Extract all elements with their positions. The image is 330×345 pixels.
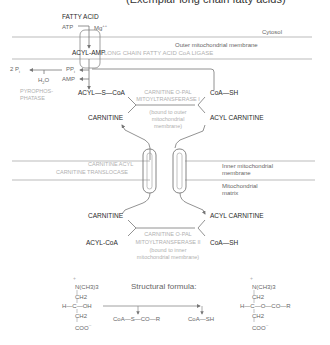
acyl-coa-label: ACYL-CoA — [86, 240, 118, 247]
outer-membrane-label: Outer mitochondrial membrane — [175, 42, 258, 48]
pyrophosphatase-label-2: PHATASE — [20, 96, 45, 102]
carnitine-row-5: COO− — [75, 323, 92, 331]
ppi-label: PPi — [66, 66, 75, 74]
carnitine-row-3: H—C—OH — [62, 303, 92, 309]
ligase-label: LONG CHAIN FATTY ACID CoA LIGASE — [104, 50, 213, 56]
transferase-i-location-2: mitochondrial — [132, 117, 204, 123]
translocase-left — [143, 149, 156, 193]
translocase-label-1: CARNITINE ACYL — [88, 162, 133, 168]
transferase-i-location-1: (bound to outer — [132, 110, 204, 116]
acyl-s-coa-label: ACYL—S—CoA — [78, 90, 125, 97]
acyl-carnitine-row-2: CH2 — [252, 294, 264, 300]
matrix-label-1: Mitochondrial — [222, 183, 258, 189]
reactant-coa-s-co-r: CoA—S—CO—R — [113, 316, 160, 322]
transferase-ii-location-2: mitochondrial membrane) — [124, 255, 212, 261]
mg-label: Mg++ — [94, 24, 107, 31]
acyl-carnitine-row-3: H—C—O—CO—R — [240, 303, 291, 309]
fatty-acid-label: FATTY ACID — [62, 14, 99, 21]
transferase-i-location-3: membrane) — [132, 124, 204, 130]
structural-formula-label: Structural formula: — [131, 283, 196, 291]
acyl-carnitine-inner-label: ACYL CARNITINE — [210, 213, 264, 220]
carnitine-row-2: CH2 — [75, 294, 87, 300]
coa-sh-outer-label: CoA—SH — [210, 90, 238, 97]
carnitine-row-1: N(CH3)3 — [75, 284, 99, 290]
product-coa-sh: CoA—SH — [188, 316, 214, 322]
carnitine-row-4: CH2 — [75, 313, 87, 319]
carnitine-inner-label: CARNITINE — [88, 213, 123, 220]
acyl-amp-label: ACYL-AMP — [72, 50, 105, 57]
transferase-ii-label-1: CARNITINE O-PAL — [132, 232, 204, 238]
atp-label: ATP — [62, 24, 73, 30]
inner-membrane-label-2: membrane — [222, 170, 251, 176]
coa-sh-inner-label: CoA—SH — [210, 240, 238, 247]
carnitine-outer-label: CARNITINE — [88, 115, 123, 122]
acyl-carnitine-row-5: COO− — [252, 323, 269, 331]
inner-membrane-label-1: Inner mitochondrial — [222, 163, 273, 169]
amp-label: AMP — [62, 76, 75, 82]
diagram-title: (Exemplar long chain fatty acids) — [126, 0, 286, 5]
acyl-carnitine-outer-label: ACYL CARNITINE — [210, 115, 264, 122]
two-pi-label: 2 Pi — [10, 66, 20, 74]
water-label: H2O — [38, 77, 49, 85]
acyl-carnitine-charge-plus: + — [250, 276, 253, 281]
translocase-label-2: CARNITINE TRANSLOCASE — [56, 170, 128, 176]
matrix-label-2: matrix — [222, 190, 238, 196]
transferase-ii-label-2: MITOYLTRANSFERASE II — [130, 240, 206, 246]
transferase-i-label-2: MITOYLTRANSFERASE I — [130, 97, 206, 103]
acyl-carnitine-row-4: CH2 — [252, 313, 264, 319]
transferase-i-label-1: CARNITINE O-PAL — [132, 90, 204, 96]
transferase-ii-location-1: (bound to inner — [132, 248, 204, 254]
pyrophosphatase-label-1: PYROPHOS- — [20, 89, 53, 95]
acyl-carnitine-row-1: N(CH3)3 — [252, 284, 276, 290]
translocase-right — [173, 149, 186, 193]
carnitine-charge-plus: + — [73, 276, 76, 281]
cytosol-label: Cytosol — [262, 29, 282, 35]
